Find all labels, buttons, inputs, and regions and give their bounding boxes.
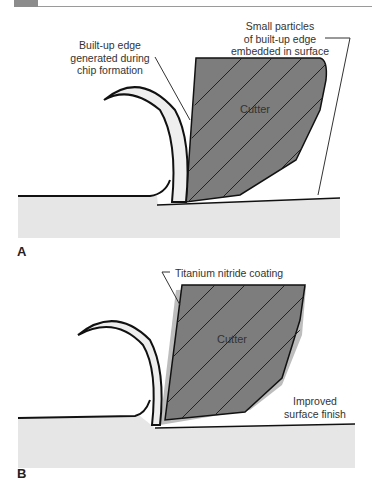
callout-small-particles: Small particles of built-up edge embedde… — [220, 20, 340, 58]
cutter-label-a: Cutter — [235, 103, 275, 116]
panel-label-b: B — [17, 466, 26, 481]
panel-label-a: A — [17, 244, 26, 259]
cutter-label-b: Cutter — [212, 333, 252, 346]
callout-built-up-edge: Built-up edge generated during chip form… — [55, 39, 165, 77]
panel-b-drawing — [18, 210, 355, 468]
callout-improved-finish: Improved surface finish — [275, 395, 355, 420]
callout-tin-coating: Titanium nitride coating — [175, 267, 305, 280]
